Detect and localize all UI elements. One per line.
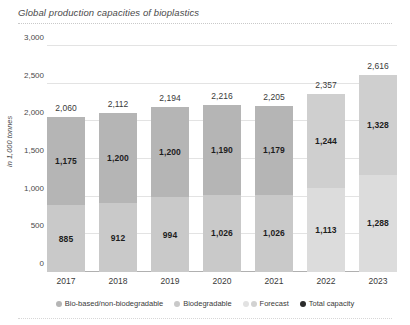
bar-segment-bio-based-non-biodegradable: 1,200 [99, 113, 137, 203]
x-axis-tick-label: 2019 [151, 276, 189, 286]
legend-item[interactable]: Bio-based/non-biodegradable [56, 299, 163, 308]
legend-item-label: Forecast [260, 299, 289, 308]
bar-segment-value: 912 [111, 233, 125, 243]
bar-segment-biodegradable: 1,288 [359, 175, 397, 272]
y-axis-tick-label: 500 [0, 221, 44, 230]
bar-segment-value: 1,200 [107, 153, 129, 163]
x-axis-tick-label: 2021 [255, 276, 293, 286]
bar-segment-bio-based-non-biodegradable: 1,179 [255, 106, 293, 195]
bar-segment-value: 1,190 [211, 145, 233, 155]
y-axis-tick-label: 1,000 [0, 183, 44, 192]
bar-segment-value: 1,328 [367, 120, 389, 130]
bar-group: 1,1131,2442,357 [307, 94, 345, 272]
y-axis-tick-label: 2,000 [0, 108, 44, 117]
bar-total-label: 2,112 [108, 99, 129, 109]
legend-marker-icon [56, 301, 62, 307]
x-axis-tick-label: 2022 [307, 276, 345, 286]
x-axis-tick-label: 2023 [359, 276, 397, 286]
gridline [47, 83, 397, 84]
legend-item[interactable]: Biodegradable [174, 299, 231, 308]
page-title: Global production capacities of bioplast… [18, 7, 199, 18]
bar-group: 1,0261,1792,205 [255, 106, 293, 272]
legend-item-label: Biodegradable [183, 299, 231, 308]
bar-segment-bio-based-non-biodegradable: 1,244 [307, 94, 345, 188]
bar-segment-value: 994 [163, 230, 177, 240]
bar-group: 8851,1752,060 [47, 117, 85, 272]
bar-group: 9941,2002,194 [151, 107, 189, 272]
bar-total-label: 2,616 [367, 61, 388, 71]
legend-item-label: Total capacity [309, 299, 354, 308]
legend-item-label: Bio-based/non-biodegradable [65, 299, 163, 308]
bar-group: 9121,2002,112 [99, 113, 137, 272]
bar-segment-biodegradable: 912 [99, 203, 137, 272]
x-axis-tick-label: 2020 [203, 276, 241, 286]
bar-total-label: 2,194 [159, 93, 180, 103]
bar-group: 1,0261,1902,216 [203, 105, 241, 272]
bar-segment-value: 1,244 [315, 136, 337, 146]
bar-segment-biodegradable: 1,026 [255, 195, 293, 272]
y-axis-tick-label: 3,000 [0, 33, 44, 42]
bar-segment-biodegradable: 994 [151, 197, 189, 272]
bar-segment-bio-based-non-biodegradable: 1,200 [151, 107, 189, 197]
bar-segment-value: 1,179 [263, 145, 285, 155]
legend-marker-icon [300, 301, 306, 307]
bar-segment-bio-based-non-biodegradable: 1,175 [47, 117, 85, 206]
legend-marker-icon [243, 301, 257, 307]
bar-total-label: 2,216 [211, 91, 232, 101]
title-divider [18, 23, 392, 25]
y-axis-tick-label: 1,500 [0, 146, 44, 155]
bar-segment-value: 1,026 [263, 228, 285, 238]
bar-group: 1,2881,3282,616 [359, 75, 397, 272]
bar-total-label: 2,205 [263, 92, 284, 102]
bar-segment-bio-based-non-biodegradable: 1,190 [203, 105, 241, 195]
y-axis-label: in 1,000 tonnes [5, 116, 14, 167]
x-axis-tick-label: 2017 [47, 276, 85, 286]
bar-total-label: 2,060 [55, 103, 76, 113]
bar-segment-value: 1,113 [315, 225, 336, 235]
bar-segment-biodegradable: 885 [47, 205, 85, 272]
bar-segment-value: 1,288 [367, 218, 389, 228]
legend-marker-icon [174, 301, 180, 307]
bar-segment-bio-based-non-biodegradable: 1,328 [359, 75, 397, 175]
legend-item[interactable]: Total capacity [300, 299, 354, 308]
x-axis-tick-label: 2018 [99, 276, 137, 286]
chart-legend: Bio-based/non-biodegradableBiodegradable… [0, 299, 410, 308]
bar-segment-biodegradable: 1,026 [203, 195, 241, 272]
gridline [47, 45, 397, 46]
legend-item[interactable]: Forecast [243, 299, 289, 308]
bar-total-label: 2,357 [315, 80, 336, 90]
bar-segment-biodegradable: 1,113 [307, 188, 345, 272]
y-axis-tick-label: 0 [0, 259, 44, 268]
bar-segment-value: 1,200 [159, 147, 181, 157]
chart-figure: Global production capacities of bioplast… [0, 0, 410, 325]
bar-segment-value: 885 [59, 234, 73, 244]
y-axis-tick-label: 2,500 [0, 70, 44, 79]
bar-segment-value: 1,175 [55, 156, 77, 166]
legend-divider [18, 318, 392, 320]
bar-segment-value: 1,026 [211, 228, 233, 238]
plot-area: 05001,0001,5002,0002,5003,0008851,1752,0… [47, 46, 397, 272]
